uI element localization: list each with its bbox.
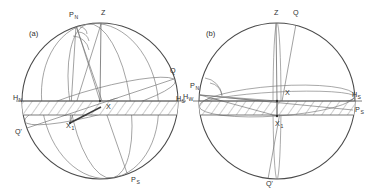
label-horizon-south-a: H [176,94,181,103]
label-zenith-b: Z [274,8,279,17]
ray-pn-center-a [76,25,100,101]
label-equator-q-a: Q [170,66,176,75]
point-x1-b [276,115,278,117]
label-south-celestial-pole-sub-b: S [361,109,365,115]
label-horizon-west-sub-b: W [189,96,194,102]
celestial-sphere-figure: (a) P N Z Q H N H S X X 1 Q' P S [0,0,378,196]
label-body-x1-b: X [275,119,280,128]
figure-root: (a) P N Z Q H N H S X X 1 Q' P S [0,0,378,196]
label-equator-q-b: Q [293,8,299,17]
label-north-celestial-pole-b: P [190,81,195,90]
label-equator-q-prime-b: Q' [266,179,274,188]
panel-a-labels: (a) P N Z Q H N H S X X 1 Q' P S [13,8,186,185]
label-body-x1-a: X [66,121,71,130]
panel-b: (b) Z Q P N H W X H S P S X 1 Q' [183,8,365,188]
label-horizon-south-b: H [352,90,357,99]
label-equator-q-prime-a: Q' [15,127,23,136]
label-south-celestial-pole-a: P [131,175,136,184]
zenith-line-a [100,23,101,101]
panel-a: (a) P N Z Q H N H S X X 1 Q' P S [13,8,186,187]
panel-caption-b: (b) [206,29,216,38]
zenith-line-b [276,23,277,101]
label-body-x-a: X [106,102,111,111]
label-horizon-north-sub-a: N [19,97,23,103]
label-horizon-north-a: H [13,93,18,102]
point-x-a [99,100,101,102]
label-south-celestial-pole-b: P [355,105,360,114]
label-north-celestial-pole-sub-b: N [196,85,200,91]
label-body-x1-sub-a: 1 [72,125,75,131]
label-horizon-south-sub-b: S [358,94,362,100]
label-zenith-a: Z [101,8,106,17]
panel-caption-a: (a) [29,29,39,38]
label-horizon-west-b: H [183,92,188,101]
angle-arc-2-b [210,83,222,96]
angle-arc-1-b [205,78,222,95]
label-north-celestial-pole-a: P [69,10,74,19]
label-body-x1-sub-b: 1 [281,123,284,129]
angle-arc-3-a [80,27,87,34]
label-body-x-b: X [285,88,290,97]
point-x-b [276,100,278,102]
label-south-celestial-pole-sub-a: S [137,179,141,185]
label-north-celestial-pole-sub-a: N [75,14,79,20]
